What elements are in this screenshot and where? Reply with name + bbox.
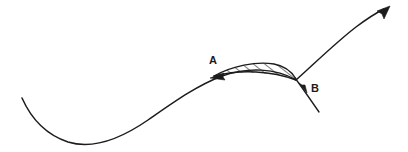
figure-background	[0, 0, 408, 152]
point-a-label: A	[209, 54, 217, 66]
diagram-canvas: A B	[0, 0, 408, 152]
figure-root: A B	[0, 0, 408, 152]
point-b-label: B	[311, 82, 319, 94]
